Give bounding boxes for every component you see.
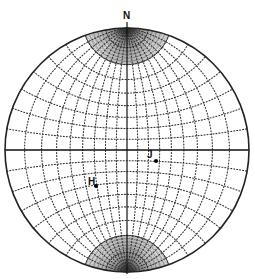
point-j-label: J — [147, 150, 153, 160]
point-h-label: H — [88, 177, 95, 187]
stereonet — [0, 0, 255, 279]
point-j-marker — [154, 159, 158, 163]
north-label: N — [123, 11, 130, 21]
